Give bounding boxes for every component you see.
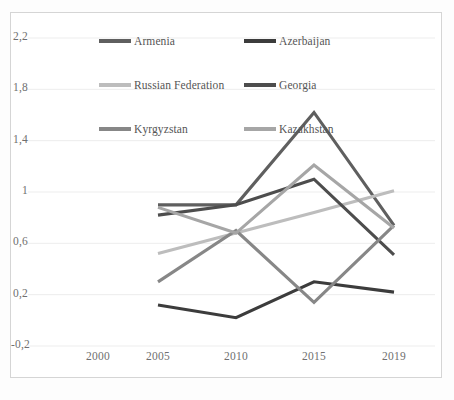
legend-item-azerbaijan[interactable]: Azerbaijan	[244, 35, 330, 47]
legend-item-kazakhstan[interactable]: Kazakhstan	[244, 123, 334, 135]
series-line-kyrgyzstan	[158, 225, 394, 302]
y-axis-tick-label: 0,2	[11, 287, 28, 299]
chart-container: 2,21,81,410,60,2-0,2 2000200520102015201…	[0, 0, 454, 400]
x-axis-tick-label: 2010	[206, 350, 266, 362]
y-axis-tick-label: -0,2	[11, 338, 28, 350]
legend-swatch-icon	[99, 39, 131, 43]
chart-plot-frame: 2,21,81,410,60,2-0,2 2000200520102015201…	[10, 12, 442, 378]
gridlines-group	[28, 38, 435, 346]
legend-swatch-icon	[99, 83, 131, 87]
legend-label: Kyrgyzstan	[134, 123, 188, 135]
x-axis-tick-label: 2015	[284, 350, 344, 362]
legend-label: Georgia	[279, 79, 317, 91]
legend-swatch-icon	[99, 127, 131, 131]
y-axis-tick-label: 2,2	[11, 30, 28, 42]
legend-label: Armenia	[134, 35, 175, 47]
legend-swatch-icon	[244, 127, 276, 131]
legend-label: Azerbaijan	[279, 35, 330, 47]
legend-item-russian-federation[interactable]: Russian Federation	[99, 79, 224, 91]
legend-item-kyrgyzstan[interactable]: Kyrgyzstan	[99, 123, 188, 135]
legend-swatch-icon	[244, 39, 276, 43]
x-axis-tick-label: 2019	[364, 350, 424, 362]
y-axis-tick-label: 1,4	[11, 133, 28, 145]
x-axis-tick-label: 2000	[68, 350, 128, 362]
y-axis-tick-label: 0,6	[11, 235, 28, 247]
series-lines-group	[158, 112, 394, 317]
line-chart-svg	[11, 13, 441, 377]
series-line-azerbaijan	[158, 282, 394, 318]
legend-label: Kazakhstan	[279, 123, 334, 135]
x-axis-tick-label: 2005	[128, 350, 188, 362]
y-axis-tick-label: 1,8	[11, 81, 28, 93]
y-axis-tick-label: 1	[11, 184, 28, 196]
legend-label: Russian Federation	[134, 79, 224, 91]
legend-item-armenia[interactable]: Armenia	[99, 35, 175, 47]
legend-swatch-icon	[244, 83, 276, 87]
legend-item-georgia[interactable]: Georgia	[244, 79, 317, 91]
